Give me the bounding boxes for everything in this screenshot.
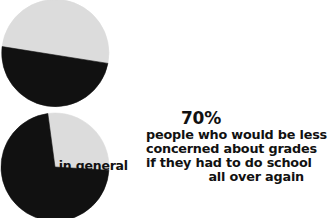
right-chart-label: 70% people who would be less concerned a… xyxy=(146,110,304,184)
pie-chart-people-in-general xyxy=(0,0,112,112)
right-caption-line-4: all over again xyxy=(146,170,304,183)
right-caption-text: people who would be less concerned about… xyxy=(146,128,304,183)
left-pie-svg xyxy=(0,0,112,112)
right-caption-line-1: people who would be less xyxy=(146,128,304,141)
left-chart-label: people in general 56% xyxy=(2,160,134,192)
left-percent-value: 56% xyxy=(2,175,134,192)
right-caption-line-2: concerned about grades xyxy=(146,142,304,155)
right-caption-line-3: if they had to do school xyxy=(146,156,304,169)
infographic-canvas: people in general 56% 70% people who wou… xyxy=(0,0,336,218)
left-caption-text: people in general xyxy=(2,160,134,173)
right-percent-value: 70% xyxy=(146,110,256,127)
